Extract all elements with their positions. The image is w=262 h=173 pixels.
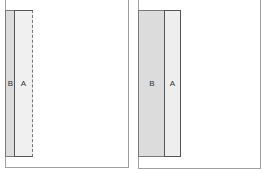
strip-a: A [14,10,33,157]
strip-a-label: A [170,79,175,88]
strip-b-label: B [8,79,13,88]
strip-b-label: B [149,79,154,88]
left-panel: B A [5,0,129,168]
strip-a: A [164,10,181,157]
strip-a-label: A [21,79,26,88]
strip-b: B [138,10,165,157]
right-panel: B A [138,0,261,169]
